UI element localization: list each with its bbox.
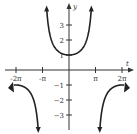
y-tick-label: −3 (54, 112, 64, 120)
y-axis-label: y (72, 3, 78, 11)
chart: t y -2π-ππ2π 321−1−2−3 (0, 0, 137, 134)
curve-arrow-icon (8, 82, 14, 93)
x-tick-label: -2π (10, 75, 22, 83)
curve-arrow-icon (97, 127, 102, 133)
y-tick-label: −2 (54, 97, 64, 105)
y-axis-arrow-icon (67, 3, 72, 9)
t-axis-arrow-icon (128, 68, 134, 73)
curve-arrow-icon (36, 127, 41, 133)
y-tick-label: 3 (60, 22, 64, 30)
y-tick-label: −1 (54, 82, 64, 90)
x-tick-label: 2π (117, 75, 126, 83)
t-axis-label: t (126, 60, 129, 68)
y-tick-label: 2 (60, 37, 64, 45)
curve-arrow-icon (124, 82, 130, 93)
x-tick-label: π (93, 75, 98, 83)
curve-arrow-icon (89, 6, 94, 12)
curve-left (14, 85, 38, 130)
curve-arrow-icon (44, 6, 49, 12)
plot-area: t y -2π-ππ2π 321−1−2−3 (0, 0, 137, 134)
curve-right (100, 85, 124, 130)
x-tick-label: -π (39, 75, 46, 83)
